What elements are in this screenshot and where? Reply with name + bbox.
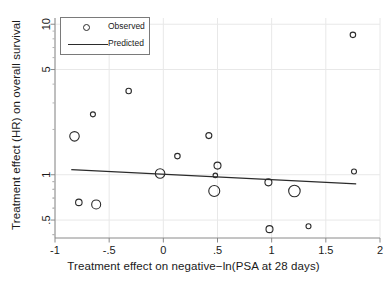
chart-figure: .51510-1-.50.511.52 Observed Predicted T… <box>0 0 387 289</box>
chart-legend: Observed Predicted <box>60 17 150 55</box>
svg-text:-1: -1 <box>50 244 60 256</box>
svg-text:.5: .5 <box>40 215 52 224</box>
legend-observed-label: Observed <box>108 21 145 31</box>
svg-text:1: 1 <box>40 172 52 178</box>
legend-predicted-label: Predicted <box>108 38 144 48</box>
legend-item-predicted: Predicted <box>61 35 149 53</box>
svg-text:2: 2 <box>377 244 383 256</box>
scatter-plot-svg: .51510-1-.50.511.52 <box>0 0 387 289</box>
legend-predicted-symbol <box>65 35 109 53</box>
svg-text:1.5: 1.5 <box>318 244 333 256</box>
plot-area: .51510-1-.50.511.52 <box>0 0 387 289</box>
legend-observed-symbol <box>65 18 109 36</box>
legend-item-observed: Observed <box>61 18 149 36</box>
svg-text:5: 5 <box>40 66 52 72</box>
svg-text:10: 10 <box>40 18 52 30</box>
svg-text:-.5: -.5 <box>103 244 116 256</box>
line-icon <box>68 44 108 45</box>
svg-text:0: 0 <box>160 244 166 256</box>
svg-text:1: 1 <box>269 244 275 256</box>
x-axis-title: Treatment effect on negative−ln(PSA at 2… <box>0 260 387 272</box>
open-circle-icon <box>83 24 90 31</box>
svg-text:.5: .5 <box>213 244 222 256</box>
y-axis-title: Treatment effect (HR) on overall surviva… <box>10 10 22 240</box>
